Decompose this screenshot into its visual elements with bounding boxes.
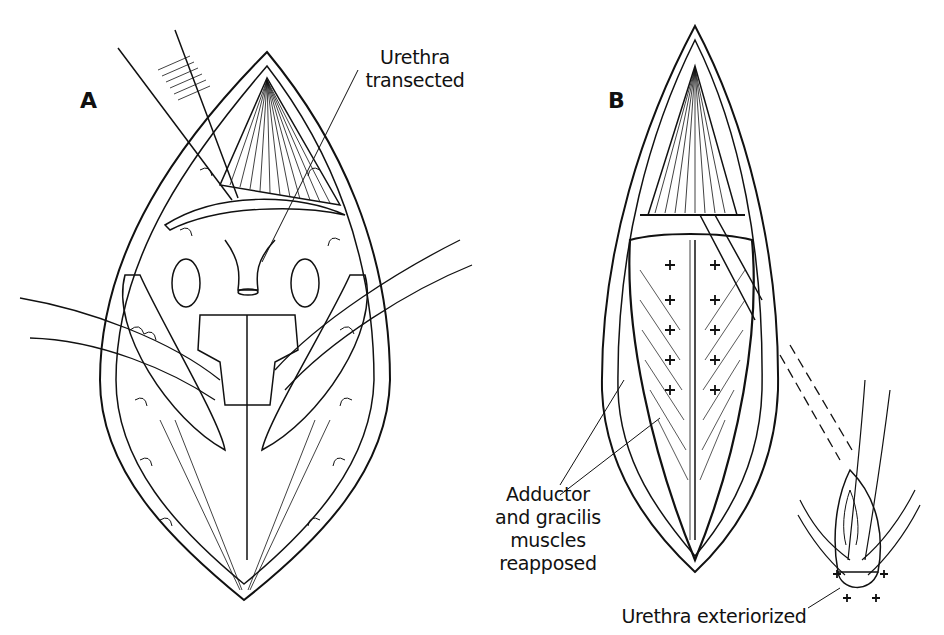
panel-b-drawing (560, 26, 920, 608)
label-urethra-transected: Urethra transected (360, 46, 470, 92)
panel-letter-a: A (80, 88, 97, 113)
panel-letter-b: B (608, 88, 625, 113)
panel-a-drawing (20, 30, 472, 600)
urethra-exteriorized-detail (798, 380, 920, 602)
label-adductor-gracilis: Adductor and gracilis muscles reapposed (484, 483, 612, 575)
surgical-illustration (0, 0, 944, 635)
label-urethra-exteriorized: Urethra exteriorized (614, 605, 814, 628)
